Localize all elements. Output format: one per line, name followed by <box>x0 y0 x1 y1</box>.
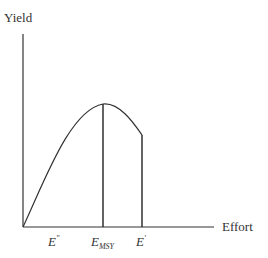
tick-e-msy: EMSY <box>91 234 114 250</box>
yield-curve <box>23 104 142 227</box>
x-axis-label: Effort <box>222 219 253 235</box>
tick-e-prime: E' <box>136 234 146 250</box>
tick-e-double-prime: E" <box>48 234 59 250</box>
y-axis-label: Yield <box>4 10 32 26</box>
